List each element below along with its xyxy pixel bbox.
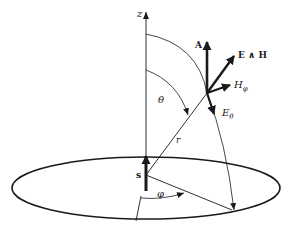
E-theta-arrow xyxy=(207,93,214,114)
reference-line xyxy=(136,196,141,221)
meridian-arc xyxy=(146,34,234,210)
H-phi-label: Hφ xyxy=(233,79,248,93)
z-axis-label: z xyxy=(136,8,143,19)
phi-label: φ xyxy=(157,188,164,199)
E-theta-label: Eθ xyxy=(221,107,234,121)
source-label: s xyxy=(136,170,141,180)
vector-A-label: A xyxy=(194,40,203,50)
dipole-radiation-diagram: z θ r s φ A E ∧ H Hφ Eθ xyxy=(0,0,290,226)
radius-line xyxy=(146,93,207,175)
theta-arc xyxy=(146,70,188,115)
radius-label: r xyxy=(176,135,181,145)
theta-label: θ xyxy=(158,94,164,105)
poynting-label: E ∧ H xyxy=(238,50,267,60)
